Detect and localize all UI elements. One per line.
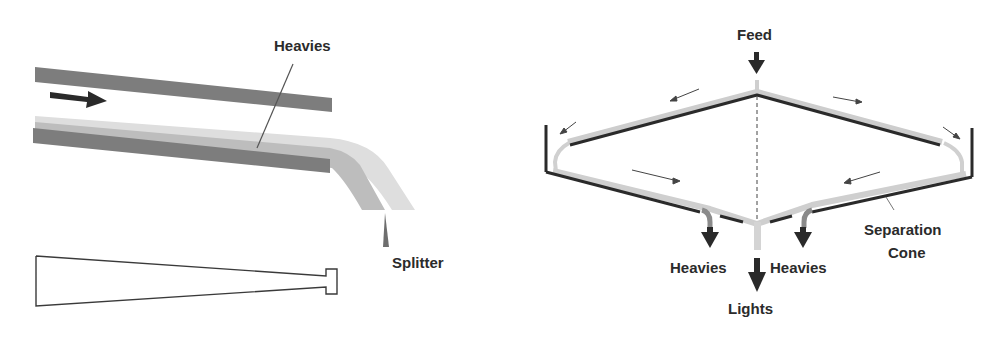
splitter-blade <box>383 213 389 247</box>
distributor-film <box>568 92 942 142</box>
separation-cone-film <box>553 171 966 224</box>
flow-direction-arrow-icon <box>50 91 107 108</box>
heavies-outlet-left <box>702 210 710 228</box>
feed-label: Feed <box>737 26 772 43</box>
heavies-left-label: Heavies <box>670 259 727 276</box>
separation-cone-label-line2: Cone <box>888 244 926 261</box>
heavies-right-label: Heavies <box>770 259 827 276</box>
lights-arrow-icon <box>748 258 766 292</box>
heavies-outlet-right <box>804 210 812 228</box>
separation-cone-left <box>546 172 700 212</box>
diagram-canvas: Heavies Splitter Feed <box>0 0 1008 338</box>
heavies-right-arrow-icon <box>794 227 812 248</box>
feed-arrow-icon <box>748 52 765 74</box>
heavies-label: Heavies <box>274 37 331 54</box>
upper-channel-wall <box>35 67 332 112</box>
flow-arrows <box>560 89 960 184</box>
reichert-cone-diagram: Feed <box>546 26 972 317</box>
lights-label: Lights <box>728 300 773 317</box>
separation-cone-leader <box>886 197 894 210</box>
distributor-cone <box>570 95 940 145</box>
figure: Heavies Splitter Feed <box>0 0 1008 338</box>
separation-cone-label-line1: Separation <box>864 221 942 238</box>
lights-outlet <box>754 222 761 250</box>
pinched-sluice-diagram: Heavies Splitter <box>33 37 444 306</box>
splitter-label: Splitter <box>392 254 444 271</box>
sluice-plan-view-outline <box>36 256 337 306</box>
heavies-left-arrow-icon <box>701 227 719 248</box>
